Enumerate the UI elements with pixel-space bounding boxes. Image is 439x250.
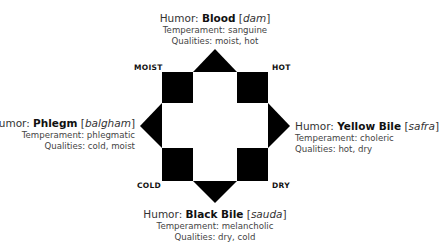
humor-name: Black Bile: [186, 208, 244, 220]
qualities-text: Qualities: cold, moist: [0, 141, 135, 152]
humor-prefix: Humor:: [295, 120, 337, 132]
bracket-open: [: [77, 117, 84, 129]
temperament-text: Temperament: sanguine: [160, 25, 271, 36]
triangle-top: [193, 49, 237, 72]
bracket-close: ]: [131, 117, 135, 129]
humor-name: Blood: [202, 12, 236, 24]
temperament-text: Temperament: phlegmatic: [0, 130, 135, 141]
qualities-text: Qualities: hot, dry: [295, 144, 439, 155]
humor-blood-block: Humor: Blood [dam] Temperament: sanguine…: [160, 12, 271, 47]
humor-prefix: Humor:: [0, 117, 33, 129]
quality-label-cold: COLD: [137, 181, 161, 190]
temperament-text: Temperament: choleric: [295, 133, 439, 144]
bracket-open: [: [243, 208, 250, 220]
triangle-left: [140, 103, 162, 148]
temperament-text: Temperament: melancholic: [143, 221, 286, 232]
bracket-close: ]: [266, 12, 270, 24]
square-cold: [162, 148, 193, 181]
humor-heading: Humor: Phlegm [balgham]: [0, 117, 135, 130]
bracket-open: [: [401, 120, 408, 132]
quality-label-hot: HOT: [272, 63, 291, 72]
humor-heading: Humor: Yellow Bile [safra]: [295, 120, 439, 133]
humor-black-bile-block: Humor: Black Bile [sauda] Temperament: m…: [143, 208, 286, 243]
humor-heading: Humor: Black Bile [sauda]: [143, 208, 286, 221]
square-moist: [162, 72, 193, 103]
square-dry: [237, 148, 268, 181]
quality-label-moist: MOIST: [134, 63, 163, 72]
humor-name: Yellow Bile: [337, 120, 401, 132]
qualities-text: Qualities: moist, hot: [160, 36, 271, 47]
bracket-close: ]: [283, 208, 287, 220]
humor-phlegm-block: Humor: Phlegm [balgham] Temperament: phl…: [0, 117, 135, 152]
humor-heading: Humor: Blood [dam]: [160, 12, 271, 25]
humor-yellow-bile-block: Humor: Yellow Bile [safra] Temperament: …: [295, 120, 439, 155]
quality-label-dry: DRY: [272, 181, 290, 190]
humor-native-name: sauda: [251, 208, 283, 220]
square-hot: [237, 72, 268, 103]
humor-prefix: Humor:: [143, 208, 185, 220]
humor-name: Phlegm: [33, 117, 77, 129]
triangle-right: [268, 103, 290, 148]
humor-native-name: dam: [243, 12, 266, 24]
qualities-text: Qualities: dry, cold: [143, 232, 286, 243]
triangle-bottom: [193, 181, 237, 203]
bracket-close: ]: [435, 120, 439, 132]
humor-native-name: balgham: [85, 117, 131, 129]
humor-native-name: safra: [409, 120, 435, 132]
humor-prefix: Humor:: [160, 12, 202, 24]
